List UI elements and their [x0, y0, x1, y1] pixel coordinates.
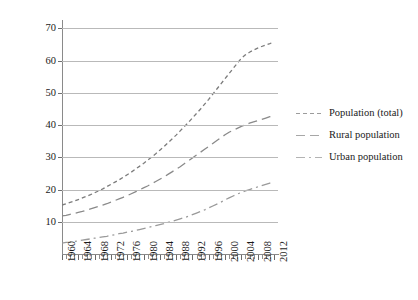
y-tick-mark	[58, 190, 62, 191]
gridline	[62, 222, 278, 223]
legend-label: Urban population	[329, 148, 403, 165]
legend-item[interactable]: Urban population	[296, 148, 418, 166]
x-tick-major	[111, 255, 112, 260]
gridline	[62, 125, 278, 126]
x-tick-label: 1996	[213, 241, 224, 262]
chart-figure: Population (million) 10203040506070 1960…	[0, 0, 418, 300]
x-tick-major	[127, 255, 128, 260]
y-tick-label: 30	[34, 152, 56, 162]
legend-line-swatch	[296, 134, 322, 136]
y-tick-label: 10	[34, 217, 56, 227]
x-tick-label: 1964	[82, 241, 93, 262]
series-lines	[62, 22, 278, 254]
x-tick-major	[160, 255, 161, 260]
y-tick-mark	[58, 61, 62, 62]
x-tick-major	[258, 255, 259, 260]
x-tick-label: 1984	[164, 241, 175, 262]
x-tick-label: 2008	[262, 241, 273, 262]
x-tick-major	[192, 255, 193, 260]
y-tick-label: 20	[34, 185, 56, 195]
x-tick-label: 1992	[196, 241, 207, 262]
x-tick-major	[176, 255, 177, 260]
series-line-1	[62, 115, 274, 216]
y-tick-label: 50	[34, 88, 56, 98]
x-tick-major	[78, 255, 79, 260]
x-tick-label: 2012	[278, 241, 289, 262]
y-tick-mark	[58, 222, 62, 223]
y-tick-label: 40	[34, 120, 56, 130]
series-line-2	[62, 182, 274, 243]
y-tick-label: 60	[34, 56, 56, 66]
x-tick-label: 2004	[245, 241, 256, 262]
x-axis-tick-labels: 1960196419681972197619801984198819921996…	[0, 0, 418, 40]
x-tick-major	[62, 255, 63, 260]
x-tick-major	[95, 255, 96, 260]
x-tick-major	[225, 255, 226, 260]
gridline	[62, 157, 278, 158]
legend-item[interactable]: Population (total)	[296, 104, 418, 122]
y-tick-mark	[58, 157, 62, 158]
x-tick-major	[274, 255, 275, 260]
legend-item[interactable]: Rural population	[296, 126, 418, 144]
gridline	[62, 190, 278, 191]
y-tick-mark	[58, 125, 62, 126]
x-tick-major	[209, 255, 210, 260]
x-tick-label: 1972	[115, 241, 126, 262]
legend-line-swatch	[296, 156, 322, 158]
gridline	[62, 93, 278, 94]
x-tick-label: 1988	[180, 241, 191, 262]
series-line-0	[62, 42, 274, 205]
x-tick-label: 1968	[99, 241, 110, 262]
x-tick-label: 1960	[66, 241, 77, 262]
x-tick-label: 1980	[148, 241, 159, 262]
legend-label: Rural population	[329, 126, 400, 143]
x-tick-label: 1976	[131, 241, 142, 262]
legend-label: Population (total)	[329, 104, 403, 121]
x-tick-major	[241, 255, 242, 260]
chart-legend: Population (total)Rural populationUrban …	[296, 104, 416, 168]
y-tick-mark	[58, 93, 62, 94]
gridline	[62, 61, 278, 62]
y-axis-tick-labels: 10203040506070	[32, 22, 56, 254]
plot-area	[62, 22, 278, 254]
legend-line-swatch	[296, 112, 322, 114]
x-tick-label: 2000	[229, 241, 240, 262]
x-tick-major	[144, 255, 145, 260]
